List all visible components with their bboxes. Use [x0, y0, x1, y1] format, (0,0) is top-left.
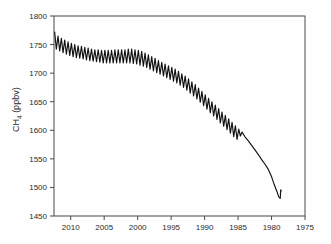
x-tick-label: 1990 — [196, 223, 214, 232]
y-tick-label: 1600 — [29, 126, 47, 135]
y-tick-label: 1650 — [29, 98, 47, 107]
x-tick-label: 2010 — [62, 223, 80, 232]
y-tick-label: 1750 — [29, 41, 47, 50]
ch4-time-series-chart: 14501500155016001650170017501800 2010200… — [0, 0, 331, 244]
y-tick-label: 1800 — [29, 12, 47, 21]
y-axis-title-text: CH4 (ppbv) — [11, 87, 23, 132]
y-axis-title-main: CH — [11, 119, 21, 132]
x-tick-label: 1975 — [296, 223, 314, 232]
y-tick-label: 1450 — [29, 212, 47, 221]
x-tick-label: 1980 — [263, 223, 281, 232]
x-tick-label: 2000 — [129, 223, 147, 232]
y-axis-title: CH4 (ppbv) — [11, 87, 23, 132]
y-tick-label: 1550 — [29, 155, 47, 164]
x-tick-label: 1985 — [229, 223, 247, 232]
y-tick-label: 1500 — [29, 183, 47, 192]
x-tick-label: 2005 — [95, 223, 113, 232]
x-tick-label: 1995 — [162, 223, 180, 232]
y-tick-label: 1700 — [29, 69, 47, 78]
figure-container: 14501500155016001650170017501800 2010200… — [0, 0, 331, 244]
figure-background — [0, 0, 331, 244]
y-axis-title-units: (ppbv) — [11, 87, 21, 115]
